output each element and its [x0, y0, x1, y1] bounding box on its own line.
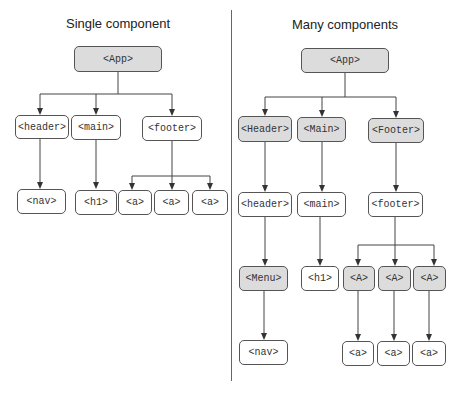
right-a-component-node-1: <A>	[343, 266, 375, 291]
left-footer-node: <footer>	[142, 116, 202, 141]
left-header-node: <header>	[15, 115, 69, 139]
right-app-node: <App>	[301, 48, 389, 73]
right-main-component-node: <Main>	[297, 117, 346, 142]
right-main-node: <main>	[297, 192, 346, 217]
panel-divider	[231, 10, 232, 381]
right-a-node-1: <a>	[342, 341, 374, 366]
right-a-component-node-3: <A>	[413, 266, 446, 291]
left-nav-node: <nav>	[17, 189, 66, 214]
left-a-node-3: <a>	[192, 190, 228, 215]
right-footer-component-node: <Footer>	[368, 118, 424, 143]
right-panel-title: Many components	[292, 17, 398, 32]
left-panel-title: Single component	[66, 16, 170, 31]
right-menu-component-node: <Menu>	[239, 266, 288, 291]
left-a-node-1: <a>	[118, 190, 152, 215]
right-header-node: <header>	[238, 192, 292, 217]
right-footer-node: <footer>	[368, 192, 423, 217]
right-a-node-3: <a>	[412, 341, 446, 366]
left-main-node: <main>	[71, 115, 121, 140]
left-h1-node: <h1>	[75, 190, 117, 215]
right-a-node-2: <a>	[377, 341, 410, 366]
left-app-node: <App>	[74, 46, 162, 72]
component-tree-diagram: Single component <App> <header> <main> <…	[0, 0, 464, 396]
left-a-node-2: <a>	[154, 190, 189, 215]
right-a-component-node-2: <A>	[378, 266, 411, 291]
right-h1-node: <h1>	[301, 266, 339, 291]
right-nav-node: <nav>	[239, 340, 288, 365]
right-header-component-node: <Header>	[238, 116, 292, 142]
